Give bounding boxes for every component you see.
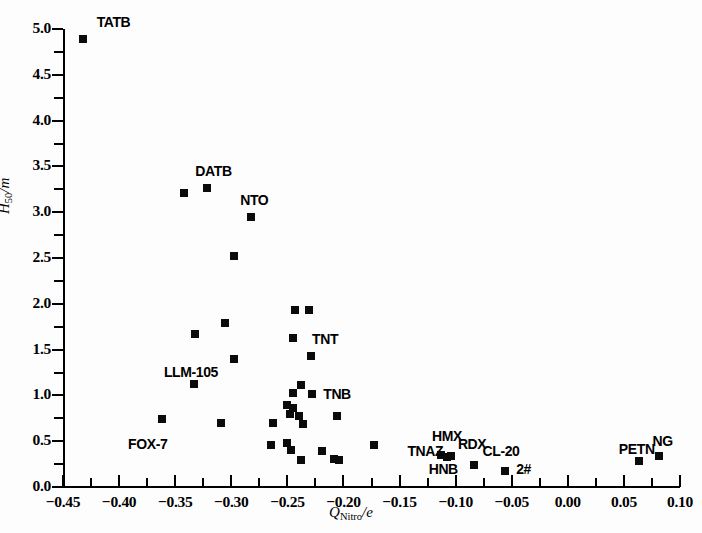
y-tick-major [52, 120, 63, 122]
x-tick-minor [314, 478, 316, 487]
x-tick-major [455, 475, 457, 487]
y-tick-label: 3.5 [5, 156, 51, 174]
data-point [286, 410, 294, 418]
point-label: TNT [312, 331, 338, 347]
x-tick-major [623, 475, 625, 487]
y-tick-minor [54, 463, 63, 465]
point-label: NTO [240, 192, 268, 208]
data-point [203, 184, 211, 192]
y-tick-minor [54, 280, 63, 282]
y-tick-major [52, 257, 63, 259]
x-tick-major [679, 475, 681, 487]
data-point [221, 319, 229, 327]
x-tick-minor [202, 478, 204, 487]
data-point [335, 456, 343, 464]
data-point [297, 381, 305, 389]
data-point [287, 446, 295, 454]
y-tick-label: 2.0 [5, 294, 51, 312]
data-point [267, 441, 275, 449]
point-label: NG [653, 433, 673, 449]
data-point [501, 467, 509, 475]
data-point [269, 419, 277, 427]
point-label: DATB [195, 163, 231, 179]
data-point [299, 420, 307, 428]
y-tick-label: 2.5 [5, 248, 51, 266]
y-tick-minor [54, 143, 63, 145]
y-tick-major [52, 74, 63, 76]
point-label: TATB [97, 14, 131, 30]
y-tick-minor [54, 51, 63, 53]
x-tick-major [118, 475, 120, 487]
y-axis-line [63, 29, 65, 487]
x-tick-minor [90, 478, 92, 487]
y-tick-major [52, 211, 63, 213]
point-label: TNAZ [407, 443, 443, 459]
data-point [307, 352, 315, 360]
x-tick-minor [146, 478, 148, 487]
x-tick-major [230, 475, 232, 487]
data-point [470, 461, 478, 469]
y-tick-minor [54, 417, 63, 419]
y-tick-label: 0.5 [5, 431, 51, 449]
data-point [295, 412, 303, 420]
data-point [655, 452, 663, 460]
point-label: CL-20 [483, 443, 520, 459]
data-point [289, 389, 297, 397]
x-tick-minor [427, 478, 429, 487]
x-tick-minor [595, 478, 597, 487]
plot-area: TATBDATBNTOTNTLLM-105TNBFOX-7TNAZHMXHNBR… [63, 29, 680, 487]
y-axis-title: H50/m [0, 178, 14, 214]
y-tick-minor [54, 326, 63, 328]
x-tick-major [342, 475, 344, 487]
y-tick-label: 4.0 [5, 111, 51, 129]
data-point [247, 213, 255, 221]
y-tick-major [52, 349, 63, 351]
data-point [79, 35, 87, 43]
data-point [289, 334, 297, 342]
data-point [291, 306, 299, 314]
x-tick-minor [371, 478, 373, 487]
y-tick-label: 4.5 [5, 65, 51, 83]
point-label: TNB [323, 386, 351, 402]
y-tick-minor [54, 372, 63, 374]
x-tick-major [286, 475, 288, 487]
data-point [190, 380, 198, 388]
x-tick-minor [258, 478, 260, 487]
data-point [305, 306, 313, 314]
point-label: HNB [429, 461, 458, 477]
data-point [230, 252, 238, 260]
y-tick-major [52, 28, 63, 30]
y-tick-major [52, 165, 63, 167]
x-tick-major [62, 475, 64, 487]
y-tick-major [52, 303, 63, 305]
x-tick-minor [483, 478, 485, 487]
x-tick-major [174, 475, 176, 487]
data-point [370, 441, 378, 449]
data-point [217, 419, 225, 427]
point-label: PETN [619, 441, 655, 457]
y-tick-minor [54, 97, 63, 99]
y-tick-minor [54, 188, 63, 190]
x-tick-minor [651, 478, 653, 487]
x-tick-major [511, 475, 513, 487]
x-axis-title: QNitro/e [0, 504, 702, 522]
data-point [180, 189, 188, 197]
data-point [297, 456, 305, 464]
data-point [191, 330, 199, 338]
data-point [318, 447, 326, 455]
data-point [308, 390, 316, 398]
y-tick-label: 1.0 [5, 385, 51, 403]
data-point [447, 452, 455, 460]
point-label: LLM-105 [164, 364, 218, 380]
data-point [635, 457, 643, 465]
x-tick-major [567, 475, 569, 487]
point-label: FOX-7 [128, 436, 167, 452]
data-point [230, 355, 238, 363]
y-tick-label: 1.5 [5, 340, 51, 358]
point-label: 2# [516, 461, 531, 477]
y-tick-major [52, 440, 63, 442]
data-point [158, 415, 166, 423]
x-tick-major [399, 475, 401, 487]
scatter-plot-figure: TATBDATBNTOTNTLLM-105TNBFOX-7TNAZHMXHNBR… [0, 0, 702, 533]
x-tick-minor [539, 478, 541, 487]
